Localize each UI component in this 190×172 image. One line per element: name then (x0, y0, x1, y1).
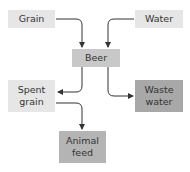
arrow-beer-waste-water (108, 67, 133, 96)
arrow-beer-spent-grain (58, 67, 82, 92)
arrow-spent-grain-animal-feed (56, 103, 82, 129)
node-beer-label: Beer (85, 52, 107, 64)
node-waste-water-line2: water (145, 96, 172, 108)
node-grain-label: Grain (19, 13, 45, 25)
arrow-grain-beer (56, 19, 82, 47)
node-beer: Beer (72, 49, 120, 67)
node-animal-feed-line1: Animal (66, 135, 99, 147)
node-spent-grain-line1: Spent (18, 84, 46, 96)
node-spent-grain: Spent grain (8, 80, 55, 112)
node-waste-water-line1: Waste (144, 84, 173, 96)
node-water: Water (135, 10, 183, 28)
node-animal-feed-line2: feed (72, 147, 93, 159)
node-spent-grain-line2: grain (19, 96, 43, 108)
node-animal-feed: Animal feed (59, 131, 106, 163)
node-waste-water: Waste water (135, 80, 183, 112)
node-grain: Grain (8, 10, 55, 28)
node-water-label: Water (145, 13, 173, 25)
arrow-water-beer (108, 19, 134, 47)
